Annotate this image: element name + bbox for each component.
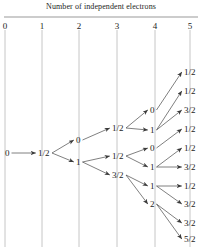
arrow-n4b-to-n5c	[157, 110, 182, 130]
coupling-tree-figure: Number of independent electrons 012345 0…	[0, 0, 202, 247]
node-n4f: 2	[150, 200, 155, 209]
arrow-n2b-to-n3c	[83, 162, 110, 175]
arrow-n4f-to-n5j	[157, 204, 182, 239]
arrow-n3a-to-n4a	[126, 110, 148, 128]
arrow-n4d-to-n5e	[157, 148, 182, 167]
arrow-n1-to-n2b	[52, 153, 74, 162]
axis-tick-5: 5	[188, 22, 193, 31]
arrow-n3c-to-n4f	[126, 175, 148, 204]
axis-tick-3: 3	[115, 22, 120, 31]
node-n0: 0	[5, 149, 10, 158]
arrow-n2a-to-n3a	[83, 128, 110, 140]
axis-guide-lines	[5, 30, 190, 247]
arrow-n4c-to-n5d	[157, 129, 182, 148]
arrow-n4e-to-n5h	[157, 186, 182, 204]
node-n4d: 1	[150, 163, 155, 172]
node-n5b: 1/2	[184, 87, 196, 96]
arrow-n4f-to-n5i	[157, 204, 182, 223]
axis-tick-4: 4	[153, 22, 158, 31]
node-n4a: 0	[150, 106, 155, 115]
node-n3a: 1/2	[112, 124, 124, 133]
node-n2b: 1	[76, 158, 81, 167]
node-n5c: 3/2	[184, 106, 196, 115]
arrow-n3b-to-n4c	[126, 148, 148, 156]
node-n1: 1/2	[38, 149, 50, 158]
node-n3c: 3/2	[112, 171, 124, 180]
node-n3b: 1/2	[112, 152, 124, 161]
arrow-n2b-to-n3b	[83, 156, 110, 162]
node-n5j: 5/2	[184, 235, 196, 244]
arrow-n4a-to-n5a	[157, 72, 182, 110]
node-n4b: 1	[150, 126, 155, 135]
node-n5e: 1/2	[184, 144, 196, 153]
arrow-n3b-to-n4d	[126, 156, 148, 167]
node-n5d: 1/2	[184, 125, 196, 134]
node-n5f: 3/2	[184, 163, 196, 172]
arrow-n3c-to-n4e	[126, 175, 148, 186]
node-n5g: 1/2	[184, 182, 196, 191]
axis-tick-1: 1	[40, 22, 45, 31]
axis-tick-0: 0	[3, 22, 8, 31]
node-n2a: 0	[76, 136, 81, 145]
node-n5h: 3/2	[184, 200, 196, 209]
arrow-n1-to-n2a	[52, 140, 74, 153]
node-n4e: 1	[150, 182, 155, 191]
node-n5i: 3/2	[184, 219, 196, 228]
arrow-n4b-to-n5b	[157, 91, 182, 130]
diagram-canvas	[0, 0, 202, 247]
node-n5a: 1/2	[184, 68, 196, 77]
node-n4c: 0	[150, 144, 155, 153]
arrow-n3a-to-n4b	[126, 128, 148, 130]
axis-tick-2: 2	[77, 22, 82, 31]
